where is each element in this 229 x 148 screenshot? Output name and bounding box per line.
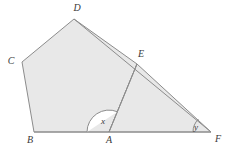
angle-label-x: x — [100, 116, 105, 126]
geometry-figure: x y A B C D E F — [0, 0, 229, 148]
vertex-label-e: E — [137, 48, 144, 59]
geometry-canvas: x y A B C D E F — [0, 0, 229, 148]
vertex-label-b: B — [27, 134, 33, 145]
vertex-label-d: D — [72, 2, 81, 13]
vertex-label-a: A — [105, 134, 113, 145]
angle-label-y: y — [193, 122, 198, 132]
vertex-label-c: C — [8, 55, 15, 66]
vertex-label-f: F — [214, 133, 222, 144]
